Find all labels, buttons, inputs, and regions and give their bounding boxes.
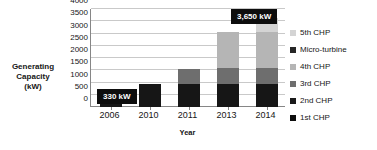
x-tick-label-2014: 2014: [246, 110, 286, 121]
bar-segment: [256, 68, 278, 84]
y-axis-title-line-3: (kW): [2, 82, 64, 92]
bar-segment: [217, 32, 239, 68]
legend-swatch-icon: [290, 47, 296, 53]
x-axis-title: Year: [90, 128, 285, 137]
y-tick-label-4000: 4000: [60, 0, 88, 5]
bar-segment: [178, 84, 200, 107]
y-axis-title-line-2: Capacity: [2, 72, 64, 82]
legend-item[interactable]: Micro-turbine: [290, 41, 376, 58]
legend-swatch-icon: [290, 81, 296, 87]
y-tick-label-500: 500: [60, 83, 88, 91]
y-tick-label-1000: 1000: [60, 71, 88, 79]
legend-item[interactable]: 3rd CHP: [290, 75, 376, 92]
legend-swatch-icon: [290, 115, 296, 121]
y-tick-label-0: 0: [60, 95, 88, 103]
legend-label: 3rd CHP: [300, 79, 331, 88]
legend-label: 5th CHP: [300, 28, 330, 37]
bar-segment: [256, 84, 278, 107]
y-tick-label-1500: 1500: [60, 58, 88, 66]
x-tick-label-2011: 2011: [168, 110, 208, 121]
legend-item[interactable]: 1st CHP: [290, 109, 376, 126]
x-tick-label-2013: 2013: [207, 110, 247, 121]
data-label-2006: 330 kW: [97, 89, 137, 104]
data-label-2014: 3,650 kW: [231, 9, 277, 24]
y-axis-tick-labels: 05001000150020002500300035004000: [60, 9, 88, 107]
x-axis-tick-labels: 20062010201120132014: [90, 110, 285, 122]
legend-label: Micro-turbine: [300, 45, 347, 54]
bar-2011[interactable]: [178, 9, 200, 107]
bar-segment: [217, 84, 239, 107]
bar-segment: [217, 68, 239, 84]
y-tick-label-3000: 3000: [60, 22, 88, 30]
generating-capacity-chart: Generating Capacity (kW) 050010001500200…: [0, 0, 377, 150]
y-tick-label-2500: 2500: [60, 34, 88, 42]
x-tick-label-2006: 2006: [90, 110, 130, 121]
legend-item[interactable]: 4th CHP: [290, 58, 376, 75]
legend-item[interactable]: 5th CHP: [290, 24, 376, 41]
y-tick-label-2000: 2000: [60, 46, 88, 54]
legend-swatch-icon: [290, 64, 296, 70]
bar-segment: [139, 84, 161, 107]
legend-label: 4th CHP: [300, 62, 330, 71]
x-tick-label-2010: 2010: [129, 110, 169, 121]
bar-segment: [256, 32, 278, 68]
bar-segment: [178, 69, 200, 84]
chart-legend: 5th CHPMicro-turbine4th CHP3rd CHP2nd CH…: [290, 24, 376, 126]
legend-swatch-icon: [290, 98, 296, 104]
legend-label: 2nd CHP: [300, 96, 332, 105]
y-axis-title-line-1: Generating: [2, 62, 64, 72]
legend-item[interactable]: 2nd CHP: [290, 92, 376, 109]
bar-2010[interactable]: [139, 9, 161, 107]
y-axis-title: Generating Capacity (kW): [2, 62, 64, 92]
y-tick-label-3500: 3500: [60, 9, 88, 17]
legend-swatch-icon: [290, 30, 296, 36]
legend-label: 1st CHP: [300, 113, 330, 122]
